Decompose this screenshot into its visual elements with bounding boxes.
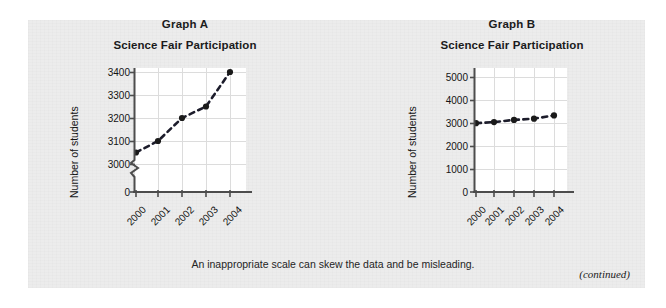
graph-a-axes [122,60,262,210]
x-tick-label: 2004 [543,204,567,228]
graph-b-y-axis-title: Number of students [406,106,418,198]
x-tick-label: 2002 [173,204,197,228]
graph-a-y-axis-title: Number of students [68,106,80,198]
x-tick-label: 2003 [197,204,221,228]
graph-a-subtitle: Science Fair Participation [50,39,320,51]
x-tick-label: 2001 [483,204,507,228]
graph-b-subtitle: Science Fair Participation [392,39,632,51]
graph-b-title: Graph B [392,18,632,30]
graph-b-panel: Graph B Science Fair Participation Numbe… [392,0,632,268]
graph-a-x-tick-labels: 2000 2001 2002 2003 2004 [134,196,246,236]
x-tick-label: 2004 [221,204,245,228]
x-tick-label: 2002 [503,204,527,228]
graph-a-panel: Graph A Science Fair Participation Numbe… [50,0,320,268]
graph-b-x-tick-labels: 2000 2001 2002 2003 2004 [474,196,567,236]
graph-a-title: Graph A [50,18,320,30]
graph-b-axes [462,60,592,210]
y-axis-with-break [131,68,138,192]
x-tick-label: 2001 [149,204,173,228]
continued-note: (continued) [579,268,630,280]
x-tick-label: 2003 [523,204,547,228]
figure-caption: An inappropriate scale can skew the data… [0,258,666,270]
